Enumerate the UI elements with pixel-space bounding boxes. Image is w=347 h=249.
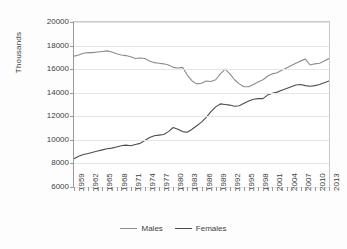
- legend-entry-males[interactable]: Males: [120, 224, 162, 233]
- x-axis-tick-mark: [79, 187, 80, 191]
- x-axis-tick-mark: [164, 187, 165, 191]
- y-axis-tick-label: 14000: [31, 89, 69, 97]
- x-axis-tick-mark: [282, 187, 283, 191]
- x-axis-tick-mark: [74, 187, 75, 191]
- x-axis-tick-mark: [173, 187, 174, 191]
- x-axis-tick-mark: [263, 187, 264, 191]
- x-axis-tick-mark: [140, 187, 141, 191]
- y-axis-tick-label: 20000: [31, 18, 69, 26]
- x-axis-tick-label: 2013: [333, 173, 341, 191]
- x-axis-tick-mark: [305, 187, 306, 191]
- x-axis-tick-mark: [102, 187, 103, 191]
- x-axis-tick-mark: [206, 187, 207, 191]
- x-axis-tick-mark: [154, 187, 155, 191]
- x-axis-tick-mark: [235, 187, 236, 191]
- gridline: [74, 93, 329, 94]
- x-axis-tick-mark: [112, 187, 113, 191]
- y-axis-title: Thousands: [14, 3, 23, 103]
- y-axis-tick-label: 18000: [31, 42, 69, 50]
- x-axis-tick-mark: [168, 187, 169, 191]
- x-axis-tick-mark: [187, 187, 188, 191]
- x-axis-tick-mark: [249, 187, 250, 191]
- x-axis-tick-mark: [301, 187, 302, 191]
- x-axis-tick-mark: [287, 187, 288, 191]
- x-axis-tick-mark: [159, 187, 160, 191]
- x-axis-tick-mark: [150, 187, 151, 191]
- series-group: [74, 22, 329, 187]
- legend-line-icon: [120, 228, 137, 229]
- x-axis-tick-mark: [183, 187, 184, 191]
- x-axis-tick-mark: [117, 187, 118, 191]
- legend-label: Females: [196, 224, 227, 233]
- x-axis-tick-mark: [107, 187, 108, 191]
- x-axis-tick-mark: [211, 187, 212, 191]
- x-axis-tick-mark: [135, 187, 136, 191]
- x-axis-tick-mark: [244, 187, 245, 191]
- x-axis-tick-mark: [192, 187, 193, 191]
- gridline: [74, 22, 329, 23]
- legend-line-icon: [175, 228, 192, 229]
- y-axis-tick-label: 6000: [31, 183, 69, 191]
- x-axis-tick-mark: [202, 187, 203, 191]
- x-axis-tick-mark: [145, 187, 146, 191]
- x-axis-tick-mark: [225, 187, 226, 191]
- x-axis-tick-mark: [131, 187, 132, 191]
- x-axis-tick-mark: [121, 187, 122, 191]
- x-axis-tick-mark: [197, 187, 198, 191]
- x-axis-tick-mark: [178, 187, 179, 191]
- gridline: [74, 163, 329, 164]
- x-axis-tick-mark: [253, 187, 254, 191]
- x-axis-tick-mark: [216, 187, 217, 191]
- x-axis-tick-mark: [220, 187, 221, 191]
- x-axis-tick-mark: [296, 187, 297, 191]
- x-axis-tick-mark: [291, 187, 292, 191]
- gridline: [74, 69, 329, 70]
- x-axis-tick-mark: [93, 187, 94, 191]
- plot-area: [73, 21, 330, 188]
- x-axis-tick-mark: [310, 187, 311, 191]
- x-axis-tick-mark: [88, 187, 89, 191]
- gridline: [74, 140, 329, 141]
- x-axis-tick-mark: [239, 187, 240, 191]
- x-axis-tick-mark: [329, 187, 330, 191]
- x-axis-tick-mark: [315, 187, 316, 191]
- x-axis-tick-mark: [126, 187, 127, 191]
- x-axis-tick-mark: [83, 187, 84, 191]
- x-axis-tick-mark: [324, 187, 325, 191]
- legend-entry-females[interactable]: Females: [175, 224, 227, 233]
- x-axis-tick-mark: [98, 187, 99, 191]
- x-axis-tick-mark: [272, 187, 273, 191]
- y-axis-tick-label: 12000: [31, 112, 69, 120]
- y-axis-tick-label: 8000: [31, 159, 69, 167]
- gridline: [74, 116, 329, 117]
- x-axis-tick-mark: [268, 187, 269, 191]
- x-axis-tick-mark: [230, 187, 231, 191]
- gridline: [74, 46, 329, 47]
- chart-legend: MalesFemales: [0, 224, 347, 233]
- x-axis-tick-mark: [277, 187, 278, 191]
- legend-label: Males: [141, 224, 162, 233]
- y-axis-tick-label: 10000: [31, 136, 69, 144]
- y-axis-tick-label: 16000: [31, 65, 69, 73]
- x-axis-tick-mark: [258, 187, 259, 191]
- chart-page: Thousands 600080001000012000140001600018…: [0, 0, 347, 249]
- x-axis-tick-mark: [320, 187, 321, 191]
